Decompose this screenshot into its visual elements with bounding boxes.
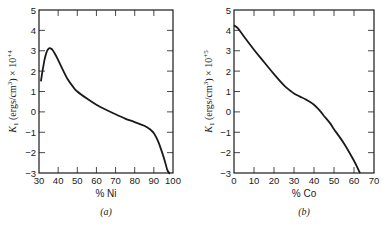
x-tick-label: 30 [289,175,300,186]
chart-panel-a: 30405060708090100−3−2−1012345% NiK1 (erg… [6,5,181,219]
x-tick-label: 10 [249,175,260,186]
x-tick-label: 90 [149,175,160,186]
y-tick-label: −1 [25,127,36,138]
x-tick-label: 0 [231,175,236,186]
x-tick-label: 20 [269,175,280,186]
x-tick-label: 100 [165,175,181,186]
y-tick-label: 2 [226,66,231,77]
x-tick-label: 40 [309,175,320,186]
chart-panel-b: 010203040506070−3−2−1012345% CoK1 (ergs/… [202,5,379,219]
y-tick-label: 4 [31,25,36,36]
x-axis-label: % Co [292,188,317,199]
y-tick-label: 5 [31,5,36,16]
y-tick-label: 3 [31,45,36,56]
y-tick-label: 0 [31,106,36,117]
x-tick-label: 50 [329,175,340,186]
y-tick-label: 1 [31,86,36,97]
data-line [41,48,170,173]
y-tick-label: 5 [226,5,231,16]
x-tick-label: 50 [72,175,83,186]
panel-label: (a) [100,206,112,218]
y-axis-label: K1 (ergs/cm3) × 10+4 [6,50,20,134]
y-tick-label: −1 [220,127,231,138]
x-tick-label: 40 [53,175,64,186]
plot-frame [234,10,374,173]
y-tick-label: −3 [25,168,36,179]
x-axis-label: % Ni [95,188,116,199]
data-line [234,25,360,173]
x-tick-label: 60 [349,175,360,186]
y-tick-label: 3 [226,45,231,56]
y-tick-label: 4 [226,25,231,36]
y-tick-label: −3 [220,168,231,179]
y-tick-label: 1 [226,86,231,97]
y-tick-label: −2 [25,147,36,158]
y-axis-label: K1 (ergs/cm3) × 10+5 [202,50,216,134]
plot-frame [39,10,173,173]
y-tick-label: 2 [31,66,36,77]
y-tick-label: −2 [220,147,231,158]
x-tick-label: 70 [369,175,380,186]
figure: 30405060708090100−3−2−1012345% NiK1 (erg… [0,0,383,226]
y-tick-label: 0 [226,106,231,117]
x-tick-label: 70 [110,175,121,186]
x-tick-label: 60 [91,175,102,186]
panel-label: (b) [298,206,310,218]
x-tick-label: 80 [129,175,140,186]
